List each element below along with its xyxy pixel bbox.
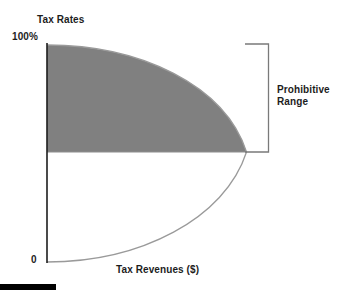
- prohibitive-range-label-line2: Range: [277, 96, 308, 107]
- prohibitive-range-label-line1: Prohibitive: [277, 84, 330, 95]
- laffer-curve-figure: Tax Rates 100% 0 Tax Revenues ($) Prohib…: [0, 0, 352, 292]
- laffer-curve-plot: [0, 0, 352, 292]
- prohibitive-range-bracket: [245, 44, 269, 152]
- x-axis-title: Tax Revenues ($): [116, 264, 199, 276]
- prohibitive-range-label: ProhibitiveRange: [277, 84, 330, 108]
- footer-rule: [0, 284, 56, 290]
- y-axis-title: Tax Rates: [37, 14, 84, 26]
- y-axis-tick-label-top: 100%: [12, 31, 38, 43]
- y-axis-tick-label-bottom: 0: [31, 254, 37, 266]
